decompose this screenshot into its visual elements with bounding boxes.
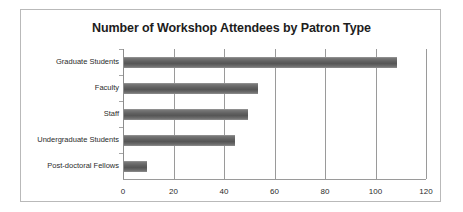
gridline [376, 49, 377, 179]
x-tick-label: 20 [159, 187, 189, 196]
plot-area [123, 49, 426, 179]
x-tick-label: 0 [108, 187, 138, 196]
x-axis-tick-labels: 020406080100120 [123, 179, 426, 195]
y-axis-tick [119, 49, 123, 50]
y-axis-tick [119, 75, 123, 76]
y-axis-category-label: Faculty [95, 83, 119, 93]
y-axis-category-label: Post-doctoral Fellows [47, 161, 119, 171]
x-tick-label: 40 [209, 187, 239, 196]
y-axis-category-label: Undergraduate Students [37, 135, 119, 145]
y-axis-category-label: Staff [104, 109, 119, 119]
bar [124, 57, 397, 68]
gridline [275, 49, 276, 179]
y-axis-tick [119, 101, 123, 102]
bar [124, 135, 235, 146]
bar [124, 109, 248, 120]
bar [124, 83, 258, 94]
y-axis-category-labels: Graduate StudentsFacultyStaffUndergradua… [21, 49, 119, 179]
x-tick-label: 120 [411, 187, 441, 196]
x-tick-label: 80 [310, 187, 340, 196]
x-tick-label: 100 [361, 187, 391, 196]
gridline [325, 49, 326, 179]
chart-title: Number of Workshop Attendees by Patron T… [21, 21, 442, 35]
y-axis-tick [119, 153, 123, 154]
bar [124, 161, 147, 172]
y-axis-tick [119, 127, 123, 128]
chart-frame: Number of Workshop Attendees by Patron T… [20, 9, 441, 202]
y-axis-category-label: Graduate Students [56, 57, 119, 67]
gridline [426, 49, 427, 179]
x-tick-label: 60 [260, 187, 290, 196]
